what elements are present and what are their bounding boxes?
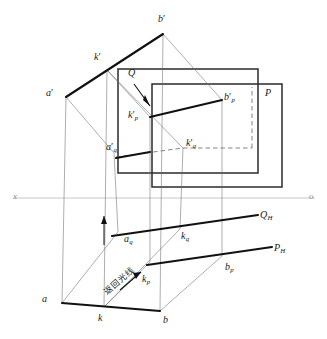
label-a-prime: a′	[46, 88, 53, 98]
line-ab-horizontal-projection	[62, 303, 160, 311]
line-on-plane-q	[116, 152, 150, 158]
label-b-prime: b′	[158, 14, 165, 24]
label-kq: kq	[181, 231, 189, 243]
label-b: b	[163, 315, 168, 325]
label-plane-p: P	[265, 88, 271, 98]
label-bp-prime: b′p	[224, 92, 235, 104]
label-axis-x: x	[13, 192, 17, 201]
label-kp-prime: k′p	[128, 110, 138, 122]
label-aq-prime: a′q	[106, 142, 117, 154]
plane-p-rect	[152, 84, 282, 187]
label-plane-q: Q	[128, 68, 135, 78]
label-k-prime: k′	[94, 52, 101, 62]
label-kp: kp	[142, 274, 150, 286]
label-trace-qh: QH	[260, 210, 272, 222]
arrow-vertical-up	[101, 216, 107, 245]
label-kq-prime: k′q	[186, 138, 196, 150]
line-ab-vertical-projection	[66, 34, 163, 97]
trace-ph	[147, 247, 272, 265]
label-a: a	[42, 294, 47, 304]
label-axis-o: o	[309, 192, 314, 201]
label-k: k	[98, 313, 102, 323]
label-bp: bp	[225, 262, 234, 274]
arrow-q-pointer	[134, 84, 150, 106]
line-on-plane-p	[150, 100, 222, 117]
projection-diagram	[0, 0, 327, 339]
label-aq: aq	[124, 234, 133, 246]
label-trace-ph: PH	[274, 243, 285, 255]
